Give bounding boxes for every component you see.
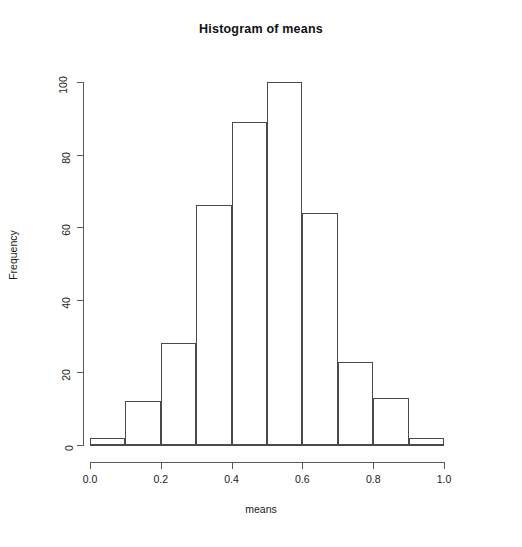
y-axis-tick bbox=[77, 372, 84, 373]
x-axis-line bbox=[90, 462, 444, 463]
x-axis-tick-label: 1.0 bbox=[419, 473, 469, 485]
y-axis-tick-label: 20 bbox=[0, 365, 72, 379]
x-axis-tick-label: 0.4 bbox=[207, 473, 257, 485]
histogram-bar bbox=[267, 82, 302, 445]
y-axis-tick-label-text: 20 bbox=[59, 370, 73, 382]
y-axis-tick-label-text: 0 bbox=[62, 445, 76, 451]
y-axis-tick-label-text: 40 bbox=[59, 297, 73, 309]
histogram-bar bbox=[196, 205, 231, 445]
histogram-bar bbox=[302, 213, 337, 445]
y-axis-tick bbox=[77, 227, 84, 228]
y-axis-tick-label-text: 100 bbox=[56, 76, 70, 94]
histogram-bar bbox=[125, 401, 160, 445]
y-axis-tick-label-text: 60 bbox=[59, 224, 73, 236]
histogram-bar bbox=[232, 122, 267, 445]
histogram-bar bbox=[90, 438, 125, 445]
chart-title: Histogram of means bbox=[0, 22, 522, 36]
histogram-plot: Histogram of means 020406080100 Frequenc… bbox=[0, 0, 522, 547]
y-axis-tick-label: 80 bbox=[0, 148, 72, 162]
y-axis-tick bbox=[77, 300, 84, 301]
x-axis-tick bbox=[90, 462, 91, 469]
x-axis-tick bbox=[373, 462, 374, 469]
plot-area bbox=[90, 75, 444, 445]
x-axis-tick-label: 0.0 bbox=[65, 473, 115, 485]
x-axis-tick bbox=[302, 462, 303, 469]
x-axis-tick-label: 0.6 bbox=[277, 473, 327, 485]
histogram-bar bbox=[161, 343, 196, 445]
x-axis-tick bbox=[232, 462, 233, 469]
y-axis-tick bbox=[77, 155, 84, 156]
y-axis-tick bbox=[77, 82, 84, 83]
histogram-bar bbox=[373, 398, 408, 445]
x-axis-tick bbox=[161, 462, 162, 469]
x-axis-title: means bbox=[0, 503, 522, 515]
histogram-bar bbox=[338, 362, 373, 445]
x-axis-tick bbox=[444, 462, 445, 469]
y-axis-tick-label: 0 bbox=[0, 438, 72, 452]
y-axis-title: Frequency bbox=[7, 185, 19, 325]
y-axis-tick-label: 100 bbox=[0, 75, 72, 89]
y-axis-tick-label-text: 80 bbox=[59, 152, 73, 164]
y-axis-line bbox=[83, 82, 84, 446]
x-axis-tick-label: 0.2 bbox=[136, 473, 186, 485]
x-axis-tick-label: 0.8 bbox=[348, 473, 398, 485]
plot-baseline bbox=[90, 445, 444, 446]
histogram-bar bbox=[409, 438, 444, 445]
y-axis-tick bbox=[77, 445, 84, 446]
